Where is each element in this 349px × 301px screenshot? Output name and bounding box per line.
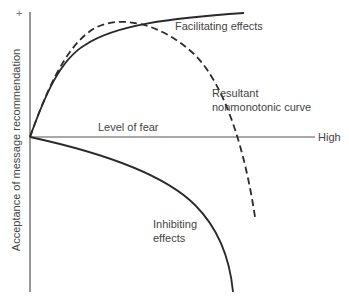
x-axis-high-label: High: [318, 131, 341, 144]
y-axis-plus-marker: +: [16, 7, 22, 20]
y-axis-label: Acceptance of message recommendation: [10, 49, 22, 251]
resultant-label-line1: Resultant: [212, 87, 258, 100]
inhibiting-curve: [30, 137, 233, 292]
diagram-canvas: [0, 0, 349, 301]
x-axis-label: Level of fear: [98, 121, 159, 134]
inhibiting-label-line1: Inhibiting: [153, 218, 197, 231]
inhibiting-label-line2: effects: [153, 232, 185, 245]
facilitating-effects-label: Facilitating effects: [175, 20, 263, 33]
resultant-label-line2: nonmonotonic curve: [212, 101, 311, 114]
resultant-nonmonotonic-curve: [30, 22, 255, 217]
